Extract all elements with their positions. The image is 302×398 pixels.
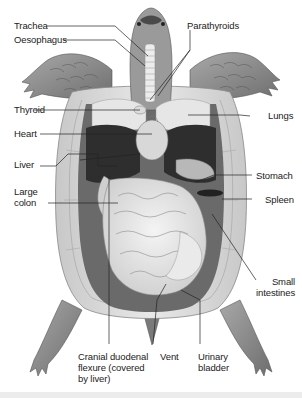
spleen-organ xyxy=(197,190,223,197)
label-trachea: Trachea xyxy=(14,20,48,31)
label-lungs: Lungs xyxy=(268,110,293,121)
trachea-organ xyxy=(145,44,155,102)
turtle-anatomy-illustration xyxy=(0,0,302,398)
label-vent: Vent xyxy=(160,351,179,362)
label-large-colon: Large colon xyxy=(14,186,38,208)
label-heart: Heart xyxy=(14,128,37,139)
small-intestines-organ xyxy=(103,178,207,295)
label-oesophagus: Oesophagus xyxy=(14,34,67,45)
label-liver: Liver xyxy=(14,159,34,170)
hind-left-leg xyxy=(30,300,82,376)
label-parathyroids: Parathyroids xyxy=(187,20,239,31)
label-stomach: Stomach xyxy=(256,170,293,181)
label-thyroid: Thyroid xyxy=(14,104,45,115)
label-small-intestines: Small intestines xyxy=(256,276,295,298)
label-cranial-duodenal-flexure: Cranial duodenal flexure (covered by liv… xyxy=(78,351,148,384)
label-spleen: Spleen xyxy=(265,194,294,205)
label-urinary-bladder: Urinary bladder xyxy=(198,351,229,373)
bottom-border xyxy=(0,392,302,398)
